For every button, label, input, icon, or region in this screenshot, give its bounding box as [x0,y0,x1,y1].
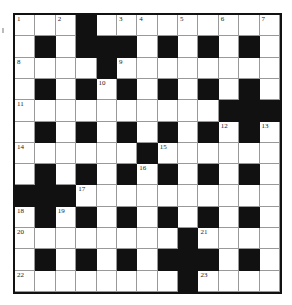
grid-cell[interactable] [219,58,239,79]
grid-cell[interactable] [260,143,280,164]
grid-cell[interactable] [178,79,198,100]
grid-cell[interactable] [239,228,259,249]
grid-cell[interactable] [35,271,55,292]
grid-cell[interactable] [97,164,117,185]
grid-cell[interactable] [260,228,280,249]
grid-cell[interactable] [137,36,157,57]
grid-cell[interactable] [56,143,76,164]
grid-cell[interactable] [219,79,239,100]
grid-cell[interactable] [260,185,280,206]
grid-cell[interactable] [56,79,76,100]
grid-cell[interactable] [178,207,198,228]
grid-cell[interactable] [178,58,198,79]
grid-cell[interactable] [260,249,280,270]
grid-cell[interactable] [178,122,198,143]
grid-cell[interactable] [137,228,157,249]
grid-cell[interactable] [15,36,35,57]
grid-cell[interactable] [97,249,117,270]
grid-cell[interactable]: 7 [260,15,280,36]
grid-cell[interactable] [178,100,198,121]
grid-cell[interactable] [178,143,198,164]
grid-cell[interactable] [56,36,76,57]
grid-cell[interactable] [15,122,35,143]
grid-cell[interactable] [137,58,157,79]
grid-cell[interactable] [117,100,137,121]
grid-cell[interactable] [117,185,137,206]
grid-cell[interactable] [76,228,96,249]
grid-cell[interactable]: 20 [15,228,35,249]
grid-cell[interactable] [158,100,178,121]
grid-cell[interactable] [198,58,218,79]
grid-cell[interactable]: 3 [117,15,137,36]
grid-cell[interactable] [239,271,259,292]
grid-cell[interactable] [137,271,157,292]
grid-cell[interactable] [97,228,117,249]
grid-cell[interactable] [35,58,55,79]
grid-cell[interactable] [117,271,137,292]
grid-cell[interactable] [178,164,198,185]
grid-cell[interactable] [260,36,280,57]
grid-cell[interactable]: 8 [15,58,35,79]
grid-cell[interactable] [15,79,35,100]
grid-cell[interactable]: 1 [15,15,35,36]
grid-cell[interactable] [137,185,157,206]
grid-cell[interactable] [76,143,96,164]
grid-cell[interactable] [15,249,35,270]
grid-cell[interactable] [35,100,55,121]
grid-cell[interactable] [137,100,157,121]
grid-cell[interactable] [117,143,137,164]
grid-cell[interactable] [15,164,35,185]
grid-cell[interactable]: 12 [219,122,239,143]
grid-cell[interactable] [158,15,178,36]
grid-cell[interactable]: 9 [117,58,137,79]
grid-cell[interactable] [260,207,280,228]
grid-cell[interactable] [137,79,157,100]
grid-cell[interactable]: 19 [56,207,76,228]
grid-cell[interactable]: 16 [137,164,157,185]
grid-cell[interactable]: 21 [198,228,218,249]
grid-cell[interactable] [56,100,76,121]
grid-cell[interactable]: 11 [15,100,35,121]
grid-cell[interactable] [35,228,55,249]
grid-cell[interactable]: 4 [137,15,157,36]
grid-cell[interactable]: 2 [56,15,76,36]
grid-cell[interactable] [158,228,178,249]
grid-cell[interactable]: 5 [178,15,198,36]
grid-cell[interactable] [56,122,76,143]
grid-cell[interactable]: 10 [97,79,117,100]
grid-cell[interactable] [97,122,117,143]
grid-cell[interactable] [219,228,239,249]
grid-cell[interactable] [239,185,259,206]
grid-cell[interactable] [260,164,280,185]
grid-cell[interactable] [117,228,137,249]
grid-cell[interactable] [56,164,76,185]
grid-cell[interactable] [260,58,280,79]
grid-cell[interactable] [158,271,178,292]
grid-cell[interactable] [178,36,198,57]
grid-cell[interactable]: 23 [198,271,218,292]
grid-cell[interactable] [97,100,117,121]
grid-cell[interactable] [76,100,96,121]
grid-cell[interactable]: 22 [15,271,35,292]
grid-cell[interactable] [56,271,76,292]
grid-cell[interactable] [198,15,218,36]
grid-cell[interactable] [260,79,280,100]
grid-cell[interactable] [97,185,117,206]
grid-cell[interactable] [260,271,280,292]
grid-cell[interactable] [35,143,55,164]
grid-cell[interactable] [35,15,55,36]
grid-cell[interactable] [76,271,96,292]
grid-cell[interactable] [56,249,76,270]
grid-cell[interactable] [219,164,239,185]
grid-cell[interactable] [219,185,239,206]
grid-cell[interactable] [219,207,239,228]
grid-cell[interactable] [97,207,117,228]
grid-cell[interactable]: 18 [15,207,35,228]
grid-cell[interactable] [56,228,76,249]
grid-cell[interactable] [158,185,178,206]
grid-cell[interactable] [97,15,117,36]
grid-cell[interactable]: 13 [260,122,280,143]
grid-cell[interactable] [178,185,198,206]
grid-cell[interactable] [198,143,218,164]
grid-cell[interactable] [137,122,157,143]
